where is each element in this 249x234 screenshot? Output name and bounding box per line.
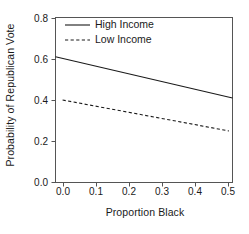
x-axis-title: Proportion Black — [55, 206, 235, 218]
y-tick-marks — [52, 19, 56, 183]
legend-label: Low Income — [95, 32, 152, 47]
series-line-low-income — [63, 100, 229, 131]
legend-label: High Income — [95, 17, 154, 32]
legend-item-low-income: Low Income — [63, 32, 213, 47]
series-line-high-income — [56, 57, 233, 98]
x-tick-marks — [64, 183, 229, 187]
chart-figure: Probability of Republican Vote 0.8 0.6 0… — [0, 0, 249, 234]
chart-legend: High Income Low Income — [63, 17, 213, 47]
legend-item-high-income: High Income — [63, 17, 213, 32]
